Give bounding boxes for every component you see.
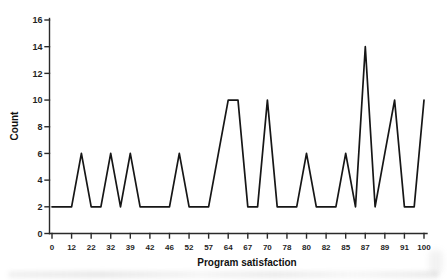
y-tick-label: 2 xyxy=(37,202,42,212)
page-scan-smudge xyxy=(429,250,443,274)
x-tick-label: 32 xyxy=(106,243,115,252)
x-tick-label: 87 xyxy=(361,243,370,252)
x-tick-label: 91 xyxy=(400,243,409,252)
x-tick-label: 67 xyxy=(243,243,252,252)
x-tick-label: 64 xyxy=(224,243,233,252)
y-tick-label: 10 xyxy=(32,95,42,105)
y-tick-label: 12 xyxy=(32,69,42,79)
x-tick-label: 42 xyxy=(145,243,154,252)
x-tick-label: 39 xyxy=(126,243,135,252)
x-tick-label: 46 xyxy=(165,243,174,252)
frequency-polygon xyxy=(52,47,424,207)
x-tick-label: 89 xyxy=(380,243,389,252)
x-tick-label: 82 xyxy=(322,243,331,252)
x-tick-label: 100 xyxy=(417,243,431,252)
x-tick-label: 80 xyxy=(302,243,311,252)
x-tick-label: 52 xyxy=(185,243,194,252)
y-tick-label: 8 xyxy=(37,122,42,132)
x-tick-label: 85 xyxy=(341,243,350,252)
x-tick-label: 12 xyxy=(67,243,76,252)
y-tick-label: 4 xyxy=(37,175,42,185)
y-axis-title: Count xyxy=(9,111,20,141)
x-tick-label: 70 xyxy=(263,243,272,252)
x-tick-label: 78 xyxy=(282,243,291,252)
plot-area: 0246810121416012223239424652576467707880… xyxy=(32,15,431,252)
x-tick-label: 57 xyxy=(204,243,213,252)
y-tick-label: 0 xyxy=(37,229,42,239)
chart-figure: 0246810121416012223239424652576467707880… xyxy=(0,0,447,280)
x-tick-label: 0 xyxy=(50,243,55,252)
x-axis-title: Program satisfaction xyxy=(197,257,296,268)
x-tick-label: 22 xyxy=(87,243,96,252)
page-scan-shadow xyxy=(8,271,439,278)
y-tick-label: 16 xyxy=(32,15,42,25)
y-tick-label: 6 xyxy=(37,149,42,159)
frequency-polygon-chart: 0246810121416012223239424652576467707880… xyxy=(0,0,447,280)
y-tick-label: 14 xyxy=(32,42,42,52)
